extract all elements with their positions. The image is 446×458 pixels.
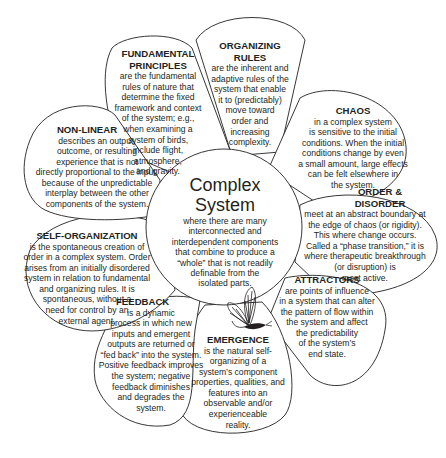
petal-non-linear: NON-LINEAR describes an output, outcome,…	[22, 124, 172, 210]
petal-body: are the inherent and adaptive rules of t…	[200, 63, 300, 148]
petal-title: ORGANIZING RULES	[200, 40, 300, 63]
petal-title: SELF-ORGANIZATION	[12, 230, 162, 242]
petal-title: ATTRACTORS	[262, 274, 392, 286]
petal-body: in a complex system is sensitive to the …	[288, 117, 418, 191]
petal-title: FUNDAMENTAL PRINCIPLES	[104, 48, 212, 71]
petal-self-organization: SELF-ORGANIZATION is the spontaneous cre…	[12, 230, 162, 326]
petal-title: CHAOS	[288, 105, 418, 117]
petal-title: ORDER & DISORDER	[320, 186, 440, 209]
complex-system-diagram: Complex System where there are many inte…	[0, 0, 446, 458]
petal-order-disorder: ORDER & DISORDER meet at an abstract bou…	[290, 186, 440, 283]
petal-body: describes an output, outcome, or resulti…	[22, 136, 172, 210]
butterfly-icon	[222, 285, 274, 333]
petal-organizing-rules: ORGANIZING RULES are the inherent and ad…	[200, 40, 300, 148]
petal-title: NON-LINEAR	[22, 124, 152, 136]
petal-chaos: CHAOS in a complex system is sensitive t…	[288, 105, 418, 191]
center-title: Complex System	[160, 175, 290, 215]
petal-body: is the spontaneous creation of order in …	[12, 242, 162, 327]
petal-body: meet at an abstract boundary at the edge…	[290, 209, 440, 283]
